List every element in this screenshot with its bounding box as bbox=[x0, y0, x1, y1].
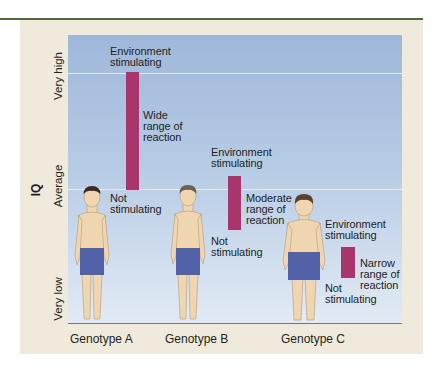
y-level-very-low: Very low bbox=[52, 277, 64, 320]
y-axis-title: IQ bbox=[29, 184, 43, 197]
genotype-a-range-bar bbox=[126, 72, 139, 190]
genotype-b-label: Genotype B bbox=[165, 332, 228, 346]
genotype-b-bottom-label: Not stimulating bbox=[211, 236, 262, 258]
genotype-c-top-label: Environment stimulating bbox=[325, 219, 386, 241]
genotype-c-range-bar bbox=[341, 247, 355, 278]
very-high-gridline bbox=[68, 73, 402, 74]
genotype-b-range-bar bbox=[228, 176, 241, 230]
genotype-a-label: Genotype A bbox=[70, 332, 133, 346]
x-axis-baseline bbox=[68, 323, 402, 324]
genotype-c-label: Genotype C bbox=[281, 332, 345, 346]
genotype-a-top-label: Environment stimulating bbox=[110, 46, 171, 68]
genotype-b-top-label: Environment stimulating bbox=[211, 147, 272, 169]
genotype-a-range-label: Wide range of reaction bbox=[143, 110, 183, 143]
child-genotype-c-illustration bbox=[281, 194, 327, 325]
genotype-a-bottom-label: Not stimulating bbox=[110, 193, 161, 215]
y-level-average: Average bbox=[52, 165, 64, 208]
y-level-very-high: Very high bbox=[52, 52, 64, 100]
child-genotype-a-illustration bbox=[72, 185, 112, 325]
genotype-c-bottom-label: Not stimulating bbox=[325, 283, 376, 305]
child-genotype-b-illustration bbox=[168, 184, 208, 325]
